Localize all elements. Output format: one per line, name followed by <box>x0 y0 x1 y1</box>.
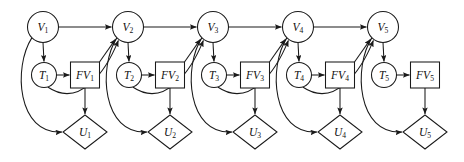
edge-v5-to-t5 <box>383 43 384 62</box>
node-chance-t1[interactable]: T1 <box>32 63 57 88</box>
node-chance-t4[interactable]: T4 <box>287 63 312 88</box>
node-utility-u2[interactable]: U2 <box>148 115 192 149</box>
node-chance-v3[interactable]: V3 <box>198 12 229 43</box>
node-decision-fv3[interactable]: FV3 <box>241 62 270 88</box>
node-decision-fv4[interactable]: FV4 <box>326 62 355 88</box>
edge-v4-to-t4 <box>298 43 299 62</box>
influence-diagram-canvas: V1T1FV1U1V2T2FV2U2V3T3FV3U3V4T4FV4U4V5T5… <box>0 0 464 162</box>
node-chance-t5[interactable]: T5 <box>372 63 397 88</box>
node-decision-fv5[interactable]: FV5 <box>411 62 440 88</box>
edge-v2-to-t2 <box>128 43 129 62</box>
node-utility-u3[interactable]: U3 <box>233 115 277 149</box>
edge-v3-to-t3 <box>213 43 214 62</box>
node-utility-u1[interactable]: U1 <box>63 115 107 149</box>
edge-v1-to-t1 <box>43 43 44 62</box>
node-utility-u4[interactable]: U4 <box>318 115 362 149</box>
influence-diagram: V1T1FV1U1V2T2FV2U2V3T3FV3U3V4T4FV4U4V5T5… <box>0 0 464 162</box>
edge-fv4-to-v5 <box>355 39 371 62</box>
node-chance-v5[interactable]: V5 <box>368 12 399 43</box>
edge-fv1-to-v2 <box>100 39 116 62</box>
node-decision-fv1[interactable]: FV1 <box>71 62 100 88</box>
edge-fv2-to-v3 <box>185 39 201 62</box>
node-chance-v1[interactable]: V1 <box>28 12 59 43</box>
node-chance-t3[interactable]: T3 <box>202 63 227 88</box>
node-utility-u5[interactable]: U5 <box>403 115 447 149</box>
node-chance-t2[interactable]: T2 <box>117 63 142 88</box>
node-decision-fv2[interactable]: FV2 <box>156 62 185 88</box>
node-chance-v2[interactable]: V2 <box>113 12 144 43</box>
edge-fv3-to-v4 <box>270 39 286 62</box>
node-chance-v4[interactable]: V4 <box>283 12 314 43</box>
